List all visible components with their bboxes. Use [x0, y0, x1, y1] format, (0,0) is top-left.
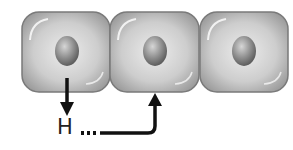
cell-3: [200, 12, 288, 92]
nucleus-3: [232, 36, 256, 66]
hormone-label: H: [57, 117, 73, 138]
cell-signaling-diagram: [0, 0, 293, 150]
target-arrow: [100, 93, 162, 133]
diffusion-dots: [81, 131, 96, 135]
cell-2: [110, 12, 199, 92]
nucleus-2: [143, 36, 167, 66]
nucleus-1: [55, 36, 79, 66]
